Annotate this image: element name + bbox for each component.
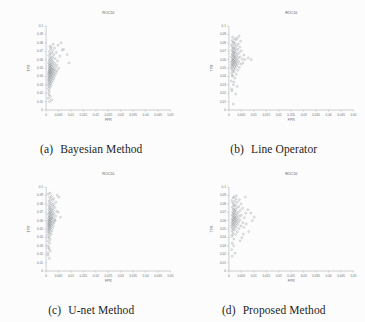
- y-tick-label: 0.07: [37, 210, 43, 214]
- caption-tag-b: (b): [230, 143, 244, 155]
- x-axis-label: FPR: [287, 279, 294, 283]
- y-tick-label: 0.03: [37, 244, 43, 248]
- x-tick-label: 0.025: [104, 113, 112, 117]
- y-tick-label: 0.05: [219, 66, 225, 70]
- y-tick-label: 0.09: [219, 193, 225, 197]
- x-tick-label: 0.015: [80, 113, 88, 117]
- y-tick-label: 0.01: [219, 100, 225, 104]
- x-tick-label: 0.005: [237, 274, 245, 278]
- x-axis-label: FPR: [105, 118, 112, 122]
- panel-grid: ROC1000.0050.010.0150.020.0250.030.0350.…: [0, 0, 365, 322]
- x-tick-label: 0.02: [275, 274, 281, 278]
- y-tick-label: 0: [41, 108, 43, 112]
- y-tick-label: 0.08: [37, 41, 43, 45]
- x-tick-label: 0.05: [167, 274, 173, 278]
- y-tick-label: 0.04: [219, 74, 225, 78]
- x-tick-label: 0.05: [350, 113, 356, 117]
- x-tick-label: 0.04: [143, 113, 149, 117]
- y-tick-label: 0.01: [219, 261, 225, 265]
- caption-label-c: U-net Method: [68, 304, 134, 316]
- y-axis-label: TPR: [27, 225, 31, 232]
- y-tick-label: 0.01: [37, 261, 43, 265]
- chart-title: ROC10: [285, 11, 297, 15]
- panel-caption-d: (d)Proposed Method: [183, 304, 365, 316]
- panel-caption-a: (a)Bayesian Method: [0, 143, 183, 155]
- scatter-chart-a: ROC1000.0050.010.0150.020.0250.030.0350.…: [0, 4, 183, 138]
- y-tick-label: 0.07: [219, 210, 225, 214]
- y-tick-label: 0.08: [219, 41, 225, 45]
- y-tick-label: 0.05: [37, 227, 43, 231]
- y-tick-label: 0.04: [37, 75, 43, 79]
- y-axis-label: TPR: [209, 225, 213, 232]
- x-tick-label: 0.03: [300, 113, 306, 117]
- chart-title: ROC10: [102, 172, 114, 176]
- y-tick-label: 0.04: [219, 235, 225, 239]
- y-tick-label: 0.08: [219, 202, 225, 206]
- scatter-chart-b: ROC1000.0050.010.0150.020.0250.030.0350.…: [183, 4, 365, 138]
- chart-title: ROC10: [102, 11, 114, 15]
- panel-caption-b: (b)Line Operator: [183, 143, 365, 155]
- x-tick-label: 0.01: [250, 274, 256, 278]
- y-tick-label: 0.07: [219, 49, 225, 53]
- caption-tag-a: (a): [40, 143, 53, 155]
- x-tick-label: 0.005: [55, 113, 63, 117]
- x-tick-label: 0.04: [143, 274, 149, 278]
- x-tick-label: 0.045: [337, 274, 345, 278]
- x-tick-label: 0.025: [104, 274, 112, 278]
- x-tick-label: 0.03: [118, 113, 124, 117]
- scatter-points: [47, 192, 62, 259]
- roc-plot-d: ROC1000.0050.010.0150.020.0250.030.0350.…: [183, 165, 365, 299]
- y-tick-label: 0.02: [37, 252, 43, 256]
- caption-label-b: Line Operator: [251, 143, 317, 155]
- x-tick-label: 0.045: [154, 274, 162, 278]
- roc-plot-c: ROC1000.0050.010.0150.020.0250.030.0350.…: [0, 165, 183, 299]
- x-tick-label: 0: [228, 274, 230, 278]
- x-tick-label: 0.03: [300, 274, 306, 278]
- x-tick-label: 0.035: [312, 113, 320, 117]
- panel-caption-c: (c)U-net Method: [0, 304, 183, 316]
- x-tick-label: 0.045: [154, 113, 162, 117]
- y-axis-label: TPR: [209, 64, 213, 71]
- chart-title: ROC10: [285, 172, 297, 176]
- x-tick-label: 0: [228, 113, 230, 117]
- y-tick-label: 0.1: [39, 24, 44, 28]
- scatter-points: [230, 35, 252, 105]
- y-tick-label: 0.03: [37, 83, 43, 87]
- figure-page: ROC1000.0050.010.0150.020.0250.030.0350.…: [0, 0, 365, 322]
- y-tick-label: 0.09: [37, 33, 43, 37]
- x-tick-label: 0.04: [325, 113, 331, 117]
- x-tick-label: 0.02: [93, 113, 99, 117]
- roc-panel-d: ROC1000.0050.010.0150.020.0250.030.0350.…: [183, 161, 365, 322]
- x-tick-label: 0.045: [337, 113, 345, 117]
- x-tick-label: 0.005: [237, 113, 245, 117]
- scatter-points: [230, 195, 255, 258]
- x-tick-label: 0.035: [129, 274, 137, 278]
- y-tick-label: 0.05: [219, 227, 225, 231]
- y-tick-label: 0.1: [221, 185, 226, 189]
- y-tick-label: 0.1: [221, 24, 226, 28]
- x-axis-label: FPR: [105, 279, 112, 283]
- x-tick-label: 0.01: [68, 274, 74, 278]
- y-tick-label: 0.09: [37, 194, 43, 198]
- x-tick-label: 0: [45, 274, 47, 278]
- y-tick-label: 0: [224, 269, 226, 273]
- y-tick-label: 0.04: [37, 236, 43, 240]
- y-tick-label: 0.1: [39, 185, 44, 189]
- x-tick-label: 0.015: [262, 113, 270, 117]
- y-tick-label: 0.06: [219, 58, 225, 62]
- y-tick-label: 0.06: [37, 219, 43, 223]
- roc-plot-a: ROC1000.0050.010.0150.020.0250.030.0350.…: [0, 4, 183, 138]
- x-tick-label: 0.025: [287, 274, 295, 278]
- x-tick-label: 0.01: [68, 113, 74, 117]
- roc-panel-a: ROC1000.0050.010.0150.020.0250.030.0350.…: [0, 0, 183, 161]
- scatter-chart-d: ROC1000.0050.010.0150.020.0250.030.0350.…: [183, 165, 365, 299]
- x-tick-label: 0.01: [250, 113, 256, 117]
- y-tick-label: 0.03: [219, 83, 225, 87]
- x-tick-label: 0.05: [167, 113, 173, 117]
- y-tick-label: 0.09: [219, 32, 225, 36]
- y-tick-label: 0: [41, 269, 43, 273]
- y-tick-label: 0.02: [219, 252, 225, 256]
- y-tick-label: 0.02: [37, 91, 43, 95]
- caption-label-d: Proposed Method: [243, 304, 326, 316]
- y-tick-label: 0.07: [37, 49, 43, 53]
